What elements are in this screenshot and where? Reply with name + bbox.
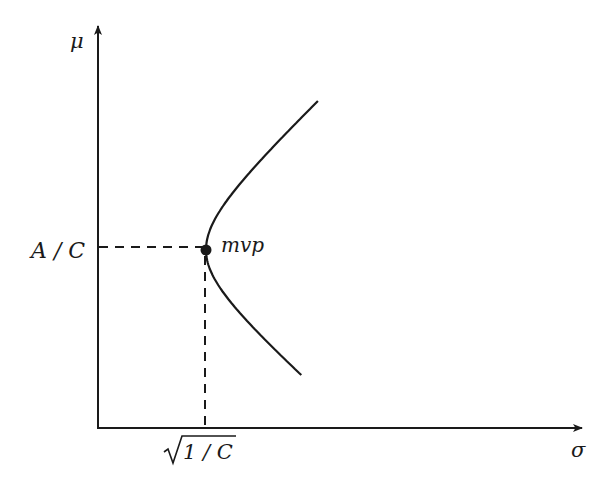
mvp-label: mvp — [221, 233, 264, 257]
x-axis-label: σ — [571, 438, 586, 462]
mvp-point — [201, 245, 212, 256]
y-tick-label: A / C — [29, 238, 85, 263]
x-tick-radicand: 1 / C — [183, 440, 233, 464]
y-axis-label: μ — [70, 29, 84, 53]
frontier-diagram: μ σ A / C mvp 1 / C — [0, 0, 615, 491]
x-tick-label: 1 / C — [164, 436, 236, 464]
